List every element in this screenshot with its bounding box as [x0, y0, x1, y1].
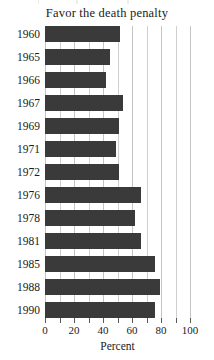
bar-row: 1978 [45, 210, 190, 226]
x-tick-label-40: 40 [98, 324, 109, 336]
category-label-1969: 1969 [17, 120, 40, 132]
x-tick-40 [103, 318, 104, 323]
bar-1988 [45, 279, 160, 295]
bar-1966 [45, 72, 106, 88]
x-tick-90 [176, 318, 177, 323]
bar-1969 [45, 118, 119, 134]
bar-1981 [45, 233, 141, 249]
bar-1965 [45, 49, 110, 65]
category-label-1971: 1971 [17, 143, 40, 155]
bar-row: 1985 [45, 256, 190, 272]
bar-row: 1967 [45, 95, 190, 111]
bar-row: 1960 [45, 26, 190, 42]
x-tick-20 [74, 318, 75, 323]
bar-row: 1972 [45, 164, 190, 180]
x-tick-80 [161, 318, 162, 323]
x-tick-30 [89, 318, 90, 323]
category-label-1972: 1972 [17, 166, 40, 178]
bar-1976 [45, 187, 141, 203]
plot-area: 1960196519661967196919711972197619781981… [45, 26, 190, 318]
x-axis-title: Percent [45, 340, 190, 352]
bar-1967 [45, 95, 123, 111]
category-label-1985: 1985 [17, 258, 40, 270]
bar-row: 1981 [45, 233, 190, 249]
x-tick-label-100: 100 [182, 324, 199, 336]
bar-row: 1969 [45, 118, 190, 134]
bar-series: 1960196519661967196919711972197619781981… [45, 26, 190, 318]
chart-title: Favor the death penalty [0, 6, 214, 21]
bar-1972 [45, 164, 119, 180]
category-label-1976: 1976 [17, 189, 40, 201]
category-label-1966: 1966 [17, 74, 40, 86]
bar-row: 1976 [45, 187, 190, 203]
x-tick-label-60: 60 [127, 324, 138, 336]
bar-row: 1990 [45, 302, 190, 318]
bar-1971 [45, 141, 116, 157]
category-label-1965: 1965 [17, 51, 40, 63]
category-label-1988: 1988 [17, 281, 40, 293]
bar-row: 1965 [45, 49, 190, 65]
gridline-100 [190, 26, 191, 318]
x-tick-10 [60, 318, 61, 323]
x-tick-60 [132, 318, 133, 323]
bar-1985 [45, 256, 155, 272]
bar-chart: Favor the death penalty 1960196519661967… [0, 0, 214, 360]
category-label-1990: 1990 [17, 304, 40, 316]
category-label-1967: 1967 [17, 97, 40, 109]
bar-1990 [45, 302, 155, 318]
category-label-1978: 1978 [17, 212, 40, 224]
x-axis: Percent 020406080100 [45, 318, 190, 360]
bar-row: 1971 [45, 141, 190, 157]
category-label-1981: 1981 [17, 235, 40, 247]
category-label-1960: 1960 [17, 28, 40, 40]
x-tick-0 [45, 318, 46, 323]
bar-row: 1988 [45, 279, 190, 295]
x-tick-100 [190, 318, 191, 323]
x-tick-label-80: 80 [156, 324, 167, 336]
bar-row: 1966 [45, 72, 190, 88]
x-tick-50 [118, 318, 119, 323]
x-tick-label-0: 0 [42, 324, 48, 336]
x-tick-label-20: 20 [69, 324, 80, 336]
x-tick-70 [147, 318, 148, 323]
bar-1960 [45, 26, 120, 42]
clipped-header-artifact [28, 0, 188, 4]
bar-1978 [45, 210, 135, 226]
